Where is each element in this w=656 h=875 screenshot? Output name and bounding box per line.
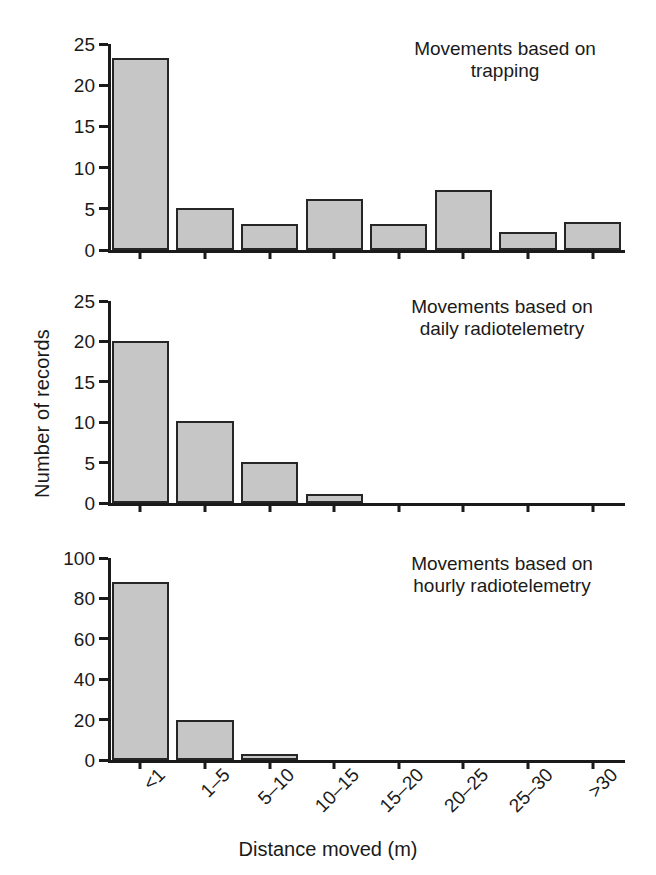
x-axis-tick (203, 503, 206, 512)
y-axis-tick (99, 759, 108, 762)
x-axis-tick (527, 503, 530, 512)
bars-group (108, 558, 625, 760)
y-axis-tick-label: 100 (63, 549, 95, 568)
y-axis-tick (99, 84, 108, 87)
y-axis-tick (99, 300, 108, 303)
y-axis-tick (99, 678, 108, 681)
y-axis-tick-label: 0 (84, 494, 95, 513)
x-axis-spine (108, 250, 625, 253)
bar (112, 58, 169, 250)
bar (306, 494, 363, 503)
bar (241, 462, 298, 503)
x-axis-tick (397, 250, 400, 259)
y-axis-tick-label: 15 (74, 117, 95, 136)
y-axis-tick (99, 597, 108, 600)
x-axis-tick (462, 503, 465, 512)
bar (435, 190, 492, 250)
y-axis-tick (99, 125, 108, 128)
y-axis-tick (99, 637, 108, 640)
y-axis-tick-label: 60 (74, 629, 95, 648)
x-axis-tick (268, 250, 271, 259)
y-axis-tick (99, 249, 108, 252)
y-axis-tick (99, 718, 108, 721)
bar (112, 582, 169, 760)
y-axis-tick-label: 25 (74, 292, 95, 311)
bar (499, 232, 556, 250)
panel-daily-radiotelemetry: Movements based on daily radiotelemetry … (0, 288, 656, 520)
y-axis-tick-label: 10 (74, 158, 95, 177)
x-axis-spine (108, 760, 625, 763)
y-axis-tick (99, 502, 108, 505)
x-axis-tick (268, 503, 271, 512)
figure: Number of records Movements based on tra… (0, 0, 656, 875)
x-axis-tick (527, 250, 530, 259)
y-axis-tick-label: 80 (74, 589, 95, 608)
x-axis-tick (333, 250, 336, 259)
y-axis-tick-label: 5 (84, 453, 95, 472)
x-axis-title: Distance moved (m) (0, 838, 656, 861)
bars-group (108, 44, 625, 250)
y-axis-tick-label: 40 (74, 670, 95, 689)
bar (564, 222, 621, 250)
y-axis-tick-label: 15 (74, 372, 95, 391)
y-axis-tick-label: 0 (84, 241, 95, 260)
bar (370, 224, 427, 250)
bar (306, 199, 363, 250)
y-axis-tick (99, 340, 108, 343)
y-axis-tick (99, 461, 108, 464)
plot-area-daily-radiotelemetry: 0510152025 (108, 301, 625, 503)
plot-area-hourly-radiotelemetry: 020406080100 (108, 558, 625, 760)
x-axis-tick (333, 503, 336, 512)
x-axis-tick (397, 503, 400, 512)
y-axis-tick (99, 421, 108, 424)
x-axis-tick-labels: <11–55–1010–1515–2020–2525–30>30 (108, 764, 625, 826)
bar (112, 341, 169, 503)
y-axis-tick-label: 10 (74, 413, 95, 432)
bar (241, 224, 298, 250)
y-axis-tick-label: 25 (74, 35, 95, 54)
bar (176, 720, 233, 760)
y-axis-tick-label: 20 (74, 76, 95, 95)
y-axis-tick (99, 557, 108, 560)
y-axis-tick (99, 207, 108, 210)
y-axis-tick-label: 0 (84, 751, 95, 770)
x-axis-tick (203, 250, 206, 259)
y-axis-tick (99, 380, 108, 383)
x-axis-tick (462, 250, 465, 259)
x-axis-tick (139, 250, 142, 259)
x-axis-spine (108, 503, 625, 506)
y-axis-tick-label: 20 (74, 332, 95, 351)
y-axis-tick-label: 20 (74, 710, 95, 729)
bar (176, 421, 233, 503)
y-axis-tick (99, 166, 108, 169)
x-axis-tick (591, 250, 594, 259)
x-axis-tick-label: <1 (122, 764, 170, 812)
plot-area-trapping: 0510152025 (108, 44, 625, 250)
panel-trapping: Movements based on trapping 0510152025 (0, 30, 656, 265)
x-axis-tick (139, 503, 142, 512)
y-axis-tick-label: 5 (84, 199, 95, 218)
panel-hourly-radiotelemetry: Movements based on hourly radiotelemetry… (0, 545, 656, 777)
x-axis-tick (591, 503, 594, 512)
y-axis-tick (99, 43, 108, 46)
bar (176, 208, 233, 250)
bars-group (108, 301, 625, 503)
